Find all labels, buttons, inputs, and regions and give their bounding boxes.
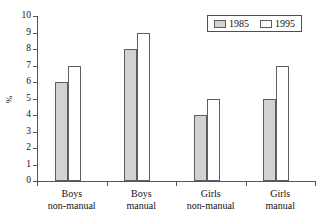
- y-tick-label: 4: [11, 110, 31, 120]
- category-label-line2: manual: [235, 200, 319, 212]
- y-tick-label: 1: [11, 160, 31, 170]
- y-tick-label: 6: [11, 77, 31, 87]
- bar-1995-girls-non-manual: [207, 99, 220, 182]
- bar-chart: % 012345678910 Boysnon-manualBoysmanualG…: [0, 0, 319, 217]
- chart-legend: 1985 1995: [207, 15, 302, 32]
- bar-1995-girls-manual: [276, 66, 289, 182]
- x-tick: [246, 181, 247, 186]
- legend-item-1995: 1995: [260, 19, 295, 29]
- bar-1985-boys-non-manual: [55, 82, 68, 181]
- plot-area: [37, 16, 315, 181]
- legend-swatch-1985-icon: [214, 20, 226, 28]
- category-label: Girlsmanual: [235, 188, 319, 212]
- y-tick-label: 8: [11, 44, 31, 54]
- y-tick-label: 9: [11, 28, 31, 38]
- legend-swatch-1995-icon: [260, 20, 272, 28]
- y-tick-label: 0: [11, 176, 31, 186]
- legend-label-1985: 1985: [229, 19, 249, 29]
- x-tick: [176, 181, 177, 186]
- category-label-line1: Girls: [235, 188, 319, 200]
- y-tick-label: 10: [11, 11, 31, 21]
- y-tick-label: 7: [11, 61, 31, 71]
- x-tick: [315, 181, 316, 186]
- bar-1995-boys-non-manual: [68, 66, 81, 182]
- legend-item-1985: 1985: [214, 19, 249, 29]
- x-tick: [107, 181, 108, 186]
- bar-1985-girls-manual: [263, 99, 276, 182]
- y-tick-label: 2: [11, 143, 31, 153]
- y-tick-label: 3: [11, 127, 31, 137]
- x-tick: [37, 181, 38, 186]
- legend-label-1995: 1995: [275, 19, 295, 29]
- bar-1985-boys-manual: [124, 49, 137, 181]
- bar-1985-girls-non-manual: [194, 115, 207, 181]
- bar-1995-boys-manual: [137, 33, 150, 182]
- y-tick-label: 5: [11, 94, 31, 104]
